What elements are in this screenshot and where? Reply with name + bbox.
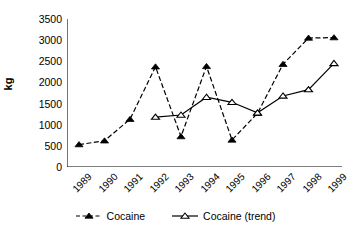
legend-label: Cocaine — [107, 210, 146, 222]
x-axis-tick-labels: 1989199019911992199319941995199619971998… — [0, 0, 350, 229]
chart-legend: CocaineCocaine (trend) — [0, 205, 350, 227]
legend-marker-hollow-triangle-icon — [171, 210, 199, 222]
chart-figure: kg 0500100015002000250030003500 19891990… — [0, 0, 350, 229]
legend-item-1[interactable]: Cocaine — [75, 210, 146, 222]
legend-marker-filled-triangle-icon — [75, 210, 103, 222]
legend-label: Cocaine (trend) — [203, 210, 275, 222]
legend-item-2[interactable]: Cocaine (trend) — [171, 210, 275, 222]
